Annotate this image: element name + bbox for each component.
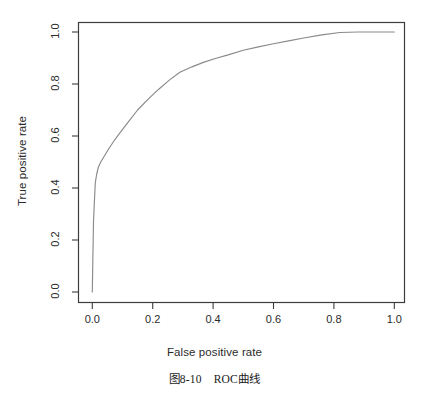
- x-tick-label: 1.0: [374, 313, 414, 325]
- x-tick-label: 0.6: [254, 313, 294, 325]
- y-tick-label: 0.4: [49, 170, 61, 204]
- roc-curve-line: [92, 32, 394, 292]
- x-tick-label: 0.0: [72, 313, 112, 325]
- x-tick-label: 0.4: [193, 313, 233, 325]
- y-tick-label: 0.6: [49, 118, 61, 152]
- x-axis-ticks: [92, 303, 394, 310]
- y-axis-ticks: [72, 32, 79, 292]
- figure-caption: 图8-10ROC曲线: [0, 370, 429, 386]
- caption-number: 图8-10: [169, 373, 202, 385]
- caption-title: ROC曲线: [214, 373, 261, 385]
- roc-curve-figure: False positive rate True positive rate 0…: [0, 0, 429, 395]
- x-tick-label: 0.8: [314, 313, 354, 325]
- y-axis-title: True positive rate: [16, 81, 28, 241]
- y-tick-label: 0.0: [49, 274, 61, 308]
- y-tick-label: 0.8: [49, 66, 61, 100]
- x-tick-label: 0.2: [133, 313, 173, 325]
- roc-plot-svg: [0, 0, 429, 395]
- y-tick-label: 0.2: [49, 222, 61, 256]
- plot-box: [79, 23, 405, 303]
- x-axis-title: False positive rate: [0, 346, 429, 358]
- y-tick-label: 1.0: [49, 14, 61, 48]
